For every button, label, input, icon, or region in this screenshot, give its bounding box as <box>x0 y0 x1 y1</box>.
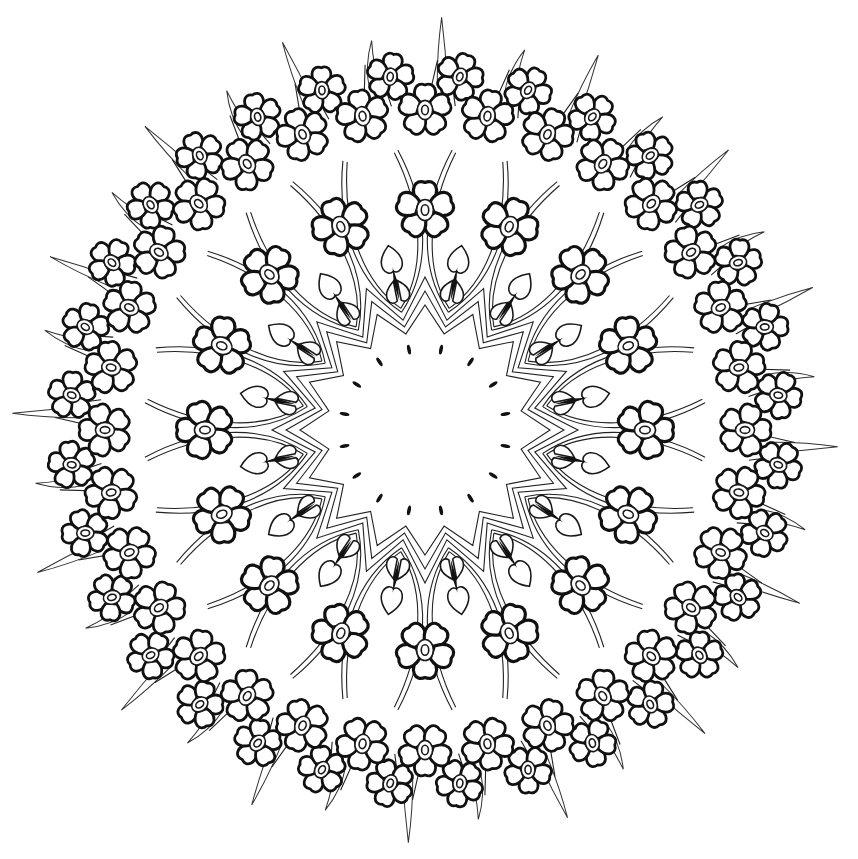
seed-dot <box>406 344 411 355</box>
inner-flower-ring <box>177 182 674 679</box>
flower <box>653 570 728 646</box>
flower <box>394 182 455 240</box>
seed-dot <box>352 471 362 480</box>
seed-dot <box>438 344 443 355</box>
rim-flower-ring <box>41 46 809 814</box>
seed-dot <box>488 471 498 480</box>
seed-dot <box>339 411 350 416</box>
flower <box>538 543 622 627</box>
heart-petal-fans <box>143 148 707 712</box>
seed-dot <box>500 443 511 448</box>
outer-leaf-spikes <box>12 17 838 843</box>
seed-dot <box>352 380 362 389</box>
flower <box>615 399 673 460</box>
star-band <box>272 277 578 583</box>
center-seed-dots <box>339 344 510 515</box>
star-band <box>286 291 564 569</box>
flower <box>228 233 312 317</box>
flower <box>538 233 622 317</box>
flower <box>177 399 235 460</box>
mandala-artwork <box>0 0 858 859</box>
seed-dot <box>466 493 475 503</box>
flower <box>122 215 197 291</box>
seed-dot <box>375 357 384 367</box>
flower <box>565 127 641 202</box>
star-bands <box>272 277 578 583</box>
seed-dot <box>406 505 411 516</box>
seed-dot <box>339 443 350 448</box>
flower <box>394 620 455 678</box>
seed-dot <box>466 357 475 367</box>
seed-dot <box>488 380 498 389</box>
flower <box>228 543 312 627</box>
star-band <box>300 305 550 555</box>
seed-dot <box>500 411 511 416</box>
seed-dot <box>375 493 384 503</box>
flower <box>210 658 286 733</box>
seed-dot <box>438 505 443 516</box>
